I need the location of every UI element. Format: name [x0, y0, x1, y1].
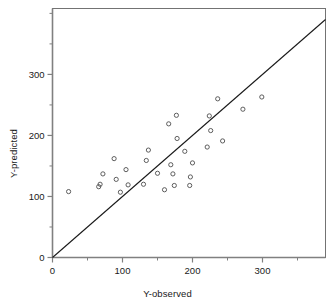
data-point	[188, 183, 192, 187]
data-point	[183, 149, 187, 153]
data-point	[67, 189, 71, 193]
data-point	[124, 168, 128, 172]
plot-canvas: 01002003000100200300	[0, 0, 335, 308]
scatter-plot-figure: 01002003000100200300 Y-observed Y-predic…	[0, 0, 335, 308]
data-point	[126, 183, 130, 187]
data-point	[174, 113, 178, 117]
data-point	[172, 183, 176, 187]
data-point	[101, 172, 105, 176]
data-point	[190, 161, 194, 165]
data-point	[112, 157, 116, 161]
data-point	[155, 171, 159, 175]
y-tick-label: 200	[29, 130, 45, 141]
data-point	[141, 182, 145, 186]
x-tick-label: 0	[50, 265, 55, 276]
data-point	[188, 175, 192, 179]
y-tick-label: 0	[39, 252, 44, 263]
x-tick-label: 100	[115, 265, 131, 276]
x-axis-label: Y-observed	[0, 288, 335, 299]
data-point	[114, 177, 118, 181]
x-tick-label: 300	[255, 265, 271, 276]
data-point	[209, 128, 213, 132]
y-tick-label: 100	[29, 191, 45, 202]
data-point	[207, 114, 211, 118]
data-point	[221, 139, 225, 143]
data-point	[162, 188, 166, 192]
data-point	[169, 163, 173, 167]
x-tick-label: 200	[185, 265, 201, 276]
data-point	[260, 95, 264, 99]
data-point	[118, 190, 122, 194]
identity-reference-line	[53, 19, 326, 257]
data-point	[144, 158, 148, 162]
data-point	[146, 148, 150, 152]
y-axis-label: Y-predicted	[8, 109, 19, 199]
plot-frame	[53, 9, 326, 258]
y-tick-label: 300	[29, 69, 45, 80]
data-point	[205, 145, 209, 149]
data-point	[171, 172, 175, 176]
data-point	[216, 97, 220, 101]
data-point	[175, 136, 179, 140]
data-point	[241, 107, 245, 111]
data-point-group	[67, 95, 264, 194]
data-point	[167, 122, 171, 126]
